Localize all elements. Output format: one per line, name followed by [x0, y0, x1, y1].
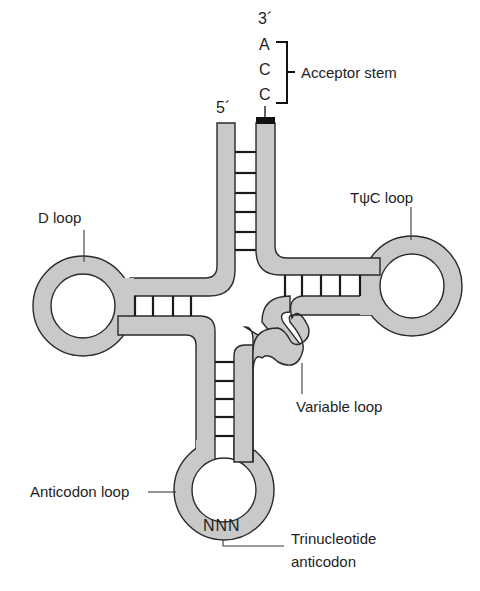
d-stem-rungs	[135, 296, 191, 316]
acceptor-5prime-strand	[130, 123, 235, 296]
trinucleotide-label-line1: Trinucleotide	[291, 530, 376, 547]
d-loop-shape	[33, 256, 134, 356]
acceptor-stem-rungs	[235, 152, 256, 250]
acceptor-bracket	[276, 42, 295, 103]
trinucleotide-label-line2: anticodon	[291, 553, 356, 570]
rna-strand	[33, 106, 462, 540]
anticodon-bases: NNN	[203, 517, 241, 534]
tpsic-loop-shape	[360, 236, 462, 336]
acceptor-base-2: C	[259, 61, 271, 78]
variable-loop-label: Variable loop	[296, 398, 382, 415]
trinucleotide-leader	[223, 540, 284, 546]
acceptor-base-3: C	[259, 86, 271, 103]
trna-diagram: 3´ A C C 5´ Acceptor stem D loop TψC loo…	[0, 0, 480, 591]
three-prime-cap	[256, 117, 275, 124]
anticodon-loop-label: Anticodon loop	[30, 483, 129, 500]
acceptor-base-1: A	[259, 36, 270, 53]
tpsic-stem-rungs	[285, 275, 360, 296]
tpsic-loop-label: TψC loop	[350, 189, 413, 206]
three-prime-label: 3´	[258, 10, 272, 27]
acceptor-stem-label: Acceptor stem	[301, 64, 397, 81]
d-loop-label: D loop	[38, 209, 81, 226]
anticodon-stem-rungs	[215, 362, 234, 436]
five-prime-label: 5´	[216, 99, 230, 116]
